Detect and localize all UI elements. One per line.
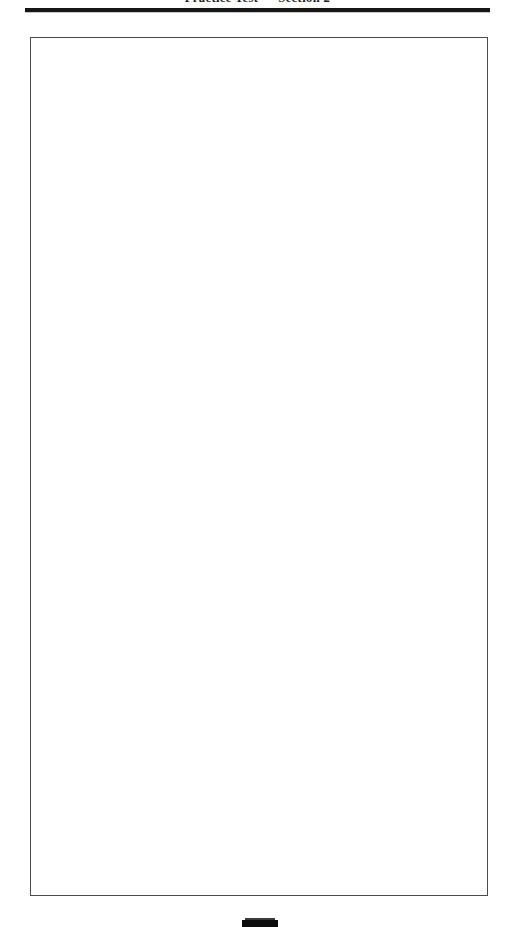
scanned-page: Practice Test — Section 2 (0, 0, 515, 927)
content-box-body (31, 38, 487, 895)
header-divider-shadow (25, 12, 490, 13)
page-title: Practice Test — Section 2 (0, 0, 515, 6)
running-header: Practice Test — Section 2 (0, 0, 515, 8)
page-marker (242, 920, 278, 927)
footer-region (0, 918, 515, 927)
content-box (30, 37, 488, 896)
